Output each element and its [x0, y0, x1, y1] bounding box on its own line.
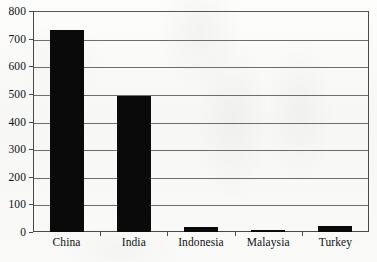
bar-series [0, 0, 377, 262]
bar-china [50, 30, 84, 232]
x-axis-tick-label: China [53, 236, 81, 248]
x-axis-tick-label: Turkey [319, 236, 352, 248]
chart-screenshot: 0100200300400500600700800 ChinaIndiaIndo… [0, 0, 377, 262]
bar-indonesia [184, 227, 218, 232]
x-axis-tick-mark [302, 232, 303, 236]
bar-malaysia [251, 230, 285, 232]
x-axis-tick-mark [100, 232, 101, 236]
x-axis-tick-mark [167, 232, 168, 236]
x-axis-tick-label: India [122, 236, 146, 248]
x-axis-tick-mark [235, 232, 236, 236]
bar-turkey [318, 226, 352, 232]
bar-india [117, 96, 151, 232]
x-axis-tick-label: Indonesia [178, 236, 224, 248]
x-axis: ChinaIndiaIndonesiaMalaysiaTurkey [33, 236, 369, 258]
x-axis-tick-label: Malaysia [247, 236, 290, 248]
